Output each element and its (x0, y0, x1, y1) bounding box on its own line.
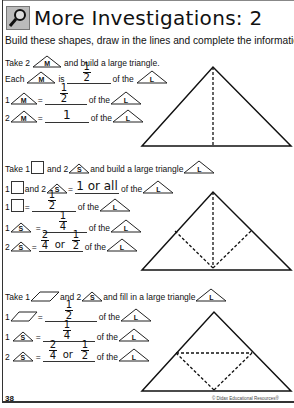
text: = (25, 202, 30, 212)
text: 2 (5, 352, 10, 362)
text: 1 (5, 202, 10, 212)
left-border (2, 0, 3, 402)
square-icon (31, 161, 44, 174)
large-triangle-icon: L (110, 219, 142, 233)
magnifier-icon (6, 6, 30, 30)
text: of the (97, 332, 118, 342)
large-triangle-icon: L (183, 160, 215, 174)
answer-field[interactable]: 12 (67, 70, 111, 84)
top-border (2, 0, 294, 1)
section2-intro: Take 1 and 2 S and build a large triangl… (5, 160, 215, 174)
square-icon (11, 199, 24, 212)
text: and build a large triangle (90, 164, 183, 174)
text: of the (85, 242, 106, 252)
text: of the (91, 113, 112, 123)
medium-triangle-icon: M (32, 55, 62, 68)
medium-triangle-icon: M (10, 110, 38, 123)
text: = (36, 332, 41, 342)
text: Take 1 (5, 164, 30, 174)
text: of the (89, 223, 110, 233)
text: = (36, 352, 41, 362)
text: of the (89, 95, 110, 105)
answer-field[interactable]: 1 or all (75, 180, 119, 194)
large-triangle-icon: L (195, 288, 227, 302)
answer-field[interactable]: 14 (43, 219, 87, 233)
text: and 2 (25, 184, 46, 194)
answer-field[interactable]: 24 or 12 (39, 238, 83, 252)
text: and fill in a large triangle (103, 292, 195, 302)
large-triangle-diagram-3 (140, 310, 294, 394)
section1-row2: 1 M = 12 of the L (5, 91, 142, 105)
page-title: More Investigations: 2 (34, 7, 263, 29)
text: Each (5, 74, 24, 84)
small-triangle-icon: S (81, 291, 103, 302)
text: = (38, 312, 43, 322)
worksheet-page: More Investigations: 2 Build these shape… (0, 0, 294, 408)
large-triangle-diagram-1 (140, 64, 294, 148)
square-icon (11, 181, 24, 194)
answer-field[interactable]: 12 (45, 91, 87, 105)
text: = (38, 95, 43, 105)
text: = (68, 184, 73, 194)
title-row: More Investigations: 2 (6, 5, 263, 31)
large-triangle-icon: L (106, 238, 138, 252)
large-triangle-diagram-2 (140, 190, 294, 274)
section1-row3: 2 M = 1 of the L (5, 109, 144, 123)
medium-triangle-icon: M (10, 92, 38, 105)
text: of the (99, 312, 120, 322)
small-triangle-icon: S (10, 222, 32, 233)
section2-row4: 2 S = 24 or 12 of the L (5, 238, 138, 252)
section2-row2: 1 = 12 of the L (5, 198, 131, 212)
medium-triangle-icon: M (26, 71, 56, 84)
bottom-border (2, 401, 294, 403)
text: of the (113, 74, 134, 84)
small-triangle-icon: S (12, 351, 34, 362)
answer-field[interactable]: 12 (32, 198, 76, 212)
text: Take 1 (5, 292, 30, 302)
text: of the (78, 202, 99, 212)
small-triangle-icon: S (10, 241, 32, 252)
section3-row1: 1 = 12 of the L (5, 308, 152, 322)
text: of the (97, 352, 118, 362)
text: Take 2 (5, 58, 30, 68)
small-triangle-icon: S (12, 331, 34, 342)
large-triangle-icon: L (110, 91, 142, 105)
text: and 2 (47, 164, 68, 174)
answer-field[interactable]: 1 (45, 109, 89, 123)
answer-field[interactable]: 24 or 12 (43, 348, 95, 362)
instructions: Build these shapes, draw in the lines an… (5, 35, 294, 46)
text: = (32, 242, 37, 252)
parallelogram-icon (30, 291, 60, 302)
section3-row2: 1 S = 14 of the L (5, 328, 150, 342)
small-triangle-icon: S (68, 163, 90, 174)
section3-row3: 2 S = 24 or 12 of the L (5, 348, 150, 362)
text: 1 (5, 184, 10, 194)
text: = (38, 113, 43, 123)
section3-intro: Take 1 and 2 S and fill in a large trian… (5, 288, 227, 302)
text: 1 (5, 332, 10, 342)
parallelogram-icon (10, 311, 38, 322)
large-triangle-icon: L (99, 198, 131, 212)
